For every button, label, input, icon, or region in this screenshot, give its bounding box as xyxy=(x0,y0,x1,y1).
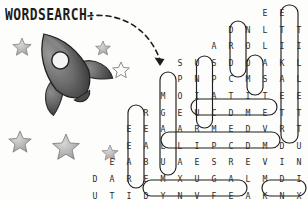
grid-letter[interactable]: D xyxy=(88,172,102,185)
grid-letter[interactable]: L xyxy=(241,172,255,185)
grid-letter[interactable]: E xyxy=(122,139,136,152)
grid-letter[interactable]: B xyxy=(139,156,153,169)
grid-letter[interactable]: P xyxy=(207,139,221,152)
grid-letter[interactable]: N xyxy=(275,189,289,201)
grid-letter[interactable]: V xyxy=(258,156,272,169)
grid-letter[interactable]: E xyxy=(173,106,187,119)
grid-letter[interactable]: U xyxy=(190,106,204,119)
grid-letter[interactable]: R xyxy=(139,106,153,119)
grid-letter[interactable]: N xyxy=(292,156,306,169)
grid-letter[interactable]: P xyxy=(207,73,221,86)
grid-letter[interactable]: V xyxy=(190,189,204,201)
grid-letter[interactable]: E xyxy=(258,6,272,19)
grid-letter[interactable]: R xyxy=(190,122,204,135)
grid-letter[interactable]: X xyxy=(292,189,306,201)
grid-letter[interactable]: O xyxy=(241,39,255,52)
grid-letter[interactable]: I xyxy=(292,172,306,185)
grid-letter[interactable]: T xyxy=(292,23,306,36)
grid-letter[interactable]: I xyxy=(275,39,289,52)
grid-letter[interactable]: C xyxy=(224,73,238,86)
grid-letter[interactable]: M xyxy=(207,122,221,135)
grid-letter[interactable]: E xyxy=(139,122,153,135)
grid-letter[interactable]: A xyxy=(275,73,289,86)
grid-letter[interactable]: O xyxy=(173,89,187,102)
grid-letter[interactable]: D xyxy=(275,172,289,185)
grid-letter[interactable]: M xyxy=(156,172,170,185)
grid-letter[interactable]: A xyxy=(207,89,221,102)
grid-letter[interactable]: M xyxy=(156,89,170,102)
grid-letter[interactable]: T xyxy=(275,106,289,119)
grid-letter[interactable]: M xyxy=(241,106,255,119)
grid-letter[interactable]: I xyxy=(190,89,204,102)
grid-letter[interactable]: L xyxy=(173,139,187,152)
grid-letter[interactable]: R xyxy=(224,156,238,169)
grid-letter[interactable]: L xyxy=(258,23,272,36)
grid-letter[interactable]: D xyxy=(139,189,153,201)
grid-letter[interactable]: S xyxy=(207,156,221,169)
grid-letter[interactable]: A xyxy=(173,122,187,135)
grid-letter[interactable]: S xyxy=(173,56,187,69)
grid-letter[interactable]: A xyxy=(156,122,170,135)
grid-letter[interactable]: U xyxy=(190,172,204,185)
grid-letter[interactable]: D xyxy=(275,139,289,152)
grid-letter[interactable]: M xyxy=(258,139,272,152)
grid-letter[interactable]: P xyxy=(173,73,187,86)
grid-letter[interactable]: S xyxy=(258,73,272,86)
grid-letter[interactable]: I xyxy=(190,139,204,152)
grid-letter[interactable]: L xyxy=(292,73,306,86)
grid-letter[interactable]: C xyxy=(207,106,221,119)
grid-letter[interactable]: N xyxy=(241,23,255,36)
grid-letter[interactable]: D xyxy=(224,23,238,36)
grid-letter[interactable]: D xyxy=(224,106,238,119)
grid-letter[interactable]: E xyxy=(241,156,255,169)
grid-letter[interactable]: U xyxy=(156,156,170,169)
grid-letter[interactable]: I xyxy=(292,39,306,52)
grid-letter[interactable]: T xyxy=(105,189,119,201)
grid-letter[interactable]: N xyxy=(190,73,204,86)
grid-letter[interactable]: I xyxy=(122,189,136,201)
grid-letter[interactable]: R xyxy=(275,122,289,135)
grid-letter[interactable]: I xyxy=(241,89,255,102)
grid-letter[interactable]: A xyxy=(122,156,136,169)
wordsearch-grid[interactable]: EEDNLTTAROLIISUSDOAKLPNPCMSALMOIATITEERG… xyxy=(0,0,308,201)
grid-letter[interactable]: S xyxy=(207,56,221,69)
grid-letter[interactable]: N xyxy=(173,189,187,201)
grid-letter[interactable]: U xyxy=(190,56,204,69)
grid-letter[interactable]: T xyxy=(258,89,272,102)
grid-letter[interactable]: U xyxy=(88,189,102,201)
grid-letter[interactable]: T xyxy=(292,122,306,135)
grid-letter[interactable]: E xyxy=(122,122,136,135)
grid-letter[interactable]: C xyxy=(224,139,238,152)
grid-letter[interactable]: E xyxy=(258,106,272,119)
grid-letter[interactable]: E xyxy=(105,156,119,169)
grid-letter[interactable]: X xyxy=(173,172,187,185)
grid-letter[interactable]: L xyxy=(156,139,170,152)
grid-letter[interactable]: A xyxy=(207,39,221,52)
grid-letter[interactable]: A xyxy=(258,56,272,69)
grid-letter[interactable]: A xyxy=(224,172,238,185)
grid-letter[interactable]: I xyxy=(275,156,289,169)
grid-letter[interactable]: M xyxy=(258,172,272,185)
grid-letter[interactable]: L xyxy=(258,39,272,52)
grid-letter[interactable]: E xyxy=(224,189,238,201)
grid-letter[interactable]: E xyxy=(275,6,289,19)
grid-letter[interactable]: K xyxy=(258,189,272,201)
grid-letter[interactable]: F xyxy=(207,189,221,201)
grid-letter[interactable]: G xyxy=(156,106,170,119)
grid-letter[interactable]: V xyxy=(258,122,272,135)
grid-letter[interactable]: T xyxy=(275,23,289,36)
grid-letter[interactable]: K xyxy=(275,56,289,69)
grid-letter[interactable]: E xyxy=(190,156,204,169)
grid-letter[interactable]: R xyxy=(224,39,238,52)
grid-letter[interactable]: D xyxy=(224,56,238,69)
grid-letter[interactable]: A xyxy=(139,139,153,152)
grid-letter[interactable]: L xyxy=(292,56,306,69)
grid-letter[interactable]: O xyxy=(241,56,255,69)
grid-letter[interactable]: Y xyxy=(156,189,170,201)
grid-letter[interactable]: A xyxy=(241,189,255,201)
grid-letter[interactable]: E xyxy=(275,89,289,102)
grid-letter[interactable]: M xyxy=(241,73,255,86)
grid-letter[interactable]: A xyxy=(105,172,119,185)
grid-letter[interactable]: T xyxy=(292,106,306,119)
grid-letter[interactable]: E xyxy=(139,172,153,185)
